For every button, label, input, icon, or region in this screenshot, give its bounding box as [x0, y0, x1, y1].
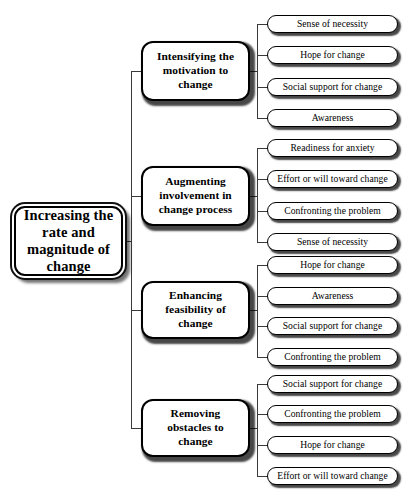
- branch-node-2-label: Augmenting involvement in change process: [149, 175, 242, 216]
- connector-trunk-to-branch-3: [131, 310, 141, 311]
- leaf-node-4-1-label: Social support for change: [273, 379, 392, 390]
- branch-node-3[interactable]: Enhancing feasibility of change: [141, 281, 250, 339]
- leaf-node-2-1-label: Readiness for anxiety: [273, 143, 392, 154]
- leaf-node-4-2-label: Confronting the problem: [273, 409, 392, 420]
- leaf-node-4-1[interactable]: Social support for change: [267, 375, 398, 393]
- branch-node-1[interactable]: Intensifying the motivation to change: [141, 41, 250, 101]
- leaf-node-3-3-label: Social support for change: [273, 321, 392, 332]
- branch-node-4[interactable]: Removing obstacles to change: [141, 399, 250, 457]
- root-node-label: Increasing the rate and magnitude of cha…: [21, 207, 116, 274]
- leaf-node-2-2[interactable]: Effort or will toward change: [267, 170, 398, 188]
- leaf-node-1-1[interactable]: Sense of necessity: [267, 15, 398, 33]
- concept-map-diagram: Increasing the rate and magnitude of cha…: [0, 0, 409, 497]
- connector-trunk-to-branch-4: [131, 428, 141, 429]
- leaf-node-1-3[interactable]: Social support for change: [267, 78, 398, 96]
- leaf-node-1-1-label: Sense of necessity: [273, 19, 392, 30]
- leaf-node-1-4[interactable]: Awareness: [267, 109, 398, 127]
- leaf-node-1-3-label: Social support for change: [273, 82, 392, 93]
- leaf-node-1-2-label: Hope for change: [273, 50, 392, 61]
- leaf-node-3-2[interactable]: Awareness: [267, 287, 398, 305]
- leaf-node-2-4-label: Sense of necessity: [273, 237, 392, 248]
- leaf-node-4-3-label: Hope for change: [273, 440, 392, 451]
- connector-bus-1: [257, 24, 258, 118]
- branch-node-1-label: Intensifying the motivation to change: [149, 50, 242, 91]
- connector-trunk: [131, 71, 132, 428]
- branch-node-4-label: Removing obstacles to change: [149, 407, 242, 448]
- leaf-node-2-2-label: Effort or will toward change: [273, 174, 392, 185]
- leaf-node-1-2[interactable]: Hope for change: [267, 46, 398, 64]
- leaf-node-2-1[interactable]: Readiness for anxiety: [267, 139, 398, 157]
- leaf-node-2-4[interactable]: Sense of necessity: [267, 233, 398, 251]
- leaf-node-4-2[interactable]: Confronting the problem: [267, 405, 398, 423]
- leaf-node-3-4-label: Confronting the problem: [273, 352, 392, 363]
- connector-bus-3: [257, 265, 258, 357]
- root-node[interactable]: Increasing the rate and magnitude of cha…: [14, 206, 123, 276]
- leaf-node-3-3[interactable]: Social support for change: [267, 317, 398, 335]
- leaf-node-2-3-label: Confronting the problem: [273, 206, 392, 217]
- leaf-node-3-4[interactable]: Confronting the problem: [267, 348, 398, 366]
- leaf-node-2-3[interactable]: Confronting the problem: [267, 202, 398, 220]
- connector-trunk-to-branch-2: [131, 196, 141, 197]
- leaf-node-1-4-label: Awareness: [273, 113, 392, 124]
- leaf-node-3-1[interactable]: Hope for change: [267, 256, 398, 274]
- connector-bus-2: [257, 148, 258, 242]
- leaf-node-4-4[interactable]: Effort or will toward change: [267, 467, 398, 485]
- leaf-node-3-1-label: Hope for change: [273, 260, 392, 271]
- leaf-node-3-2-label: Awareness: [273, 291, 392, 302]
- connector-bus-4: [257, 384, 258, 476]
- branch-node-3-label: Enhancing feasibility of change: [149, 289, 242, 330]
- leaf-node-4-3[interactable]: Hope for change: [267, 436, 398, 454]
- leaf-node-4-4-label: Effort or will toward change: [273, 471, 392, 482]
- branch-node-2[interactable]: Augmenting involvement in change process: [141, 166, 250, 226]
- connector-trunk-to-branch-1: [131, 71, 141, 72]
